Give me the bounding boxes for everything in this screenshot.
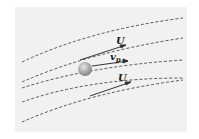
flow-diagram: U vp U (0, 0, 199, 139)
particle (78, 62, 92, 76)
streamline-1 (22, 18, 183, 62)
label-u-lower: U (118, 72, 128, 83)
label-u-upper: U (116, 35, 126, 46)
streamline-5 (22, 80, 183, 122)
streamline-4 (22, 78, 183, 102)
streamline-2 (22, 38, 183, 82)
label-vp: vp (110, 51, 121, 64)
